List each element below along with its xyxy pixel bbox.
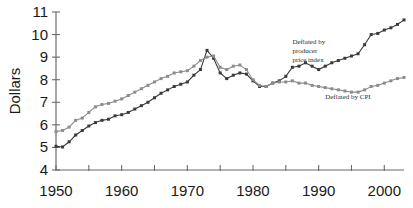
data-point-marker: [166, 75, 169, 78]
data-point-marker: [403, 18, 406, 21]
data-point-marker: [219, 66, 222, 69]
data-point-marker: [291, 79, 294, 82]
line-chart: 4567891011195019601970198019902000Dollar…: [0, 0, 413, 208]
data-point-marker: [199, 59, 202, 62]
data-point-marker: [74, 119, 77, 122]
data-point-marker: [173, 71, 176, 74]
data-point-marker: [81, 117, 84, 120]
data-point-marker: [107, 118, 110, 121]
data-point-marker: [127, 111, 130, 114]
data-point-marker: [396, 77, 399, 80]
y-tick-label: 7: [40, 93, 48, 110]
data-point-marker: [55, 130, 58, 133]
data-point-marker: [311, 84, 314, 87]
data-point-marker: [179, 70, 182, 73]
x-tick-label: 2000: [368, 182, 401, 199]
data-point-marker: [389, 79, 392, 82]
y-tick-label: 10: [31, 26, 48, 43]
data-point-marker: [265, 85, 268, 88]
data-point-marker: [94, 105, 97, 108]
data-point-marker: [337, 88, 340, 91]
data-point-marker: [140, 104, 143, 107]
data-point-marker: [245, 68, 248, 71]
data-point-marker: [146, 84, 149, 87]
data-point-marker: [363, 88, 366, 91]
x-tick-label: 1950: [39, 182, 72, 199]
data-point-marker: [291, 66, 294, 69]
y-tick-label: 11: [32, 3, 48, 20]
x-tick-label: 1990: [302, 182, 335, 199]
data-point-marker: [297, 65, 300, 68]
data-point-marker: [396, 23, 399, 26]
data-point-marker: [61, 129, 64, 132]
x-tick-label: 1980: [236, 182, 269, 199]
data-point-marker: [225, 77, 228, 80]
data-point-marker: [120, 97, 123, 100]
data-point-marker: [370, 33, 373, 36]
y-axis-title: Dollars: [6, 68, 23, 115]
data-point-marker: [403, 76, 406, 79]
data-point-marker: [363, 43, 366, 46]
data-point-marker: [370, 85, 373, 88]
data-point-marker: [192, 65, 195, 68]
data-point-marker: [206, 56, 209, 59]
data-point-marker: [304, 82, 307, 85]
data-point-marker: [357, 52, 360, 55]
data-point-marker: [212, 55, 215, 58]
data-point-marker: [284, 75, 287, 78]
data-point-marker: [160, 92, 163, 95]
data-point-marker: [245, 73, 248, 76]
data-point-marker: [330, 61, 333, 64]
data-point-marker: [225, 68, 228, 71]
data-point-marker: [376, 32, 379, 35]
annotation-line: producer: [292, 47, 318, 55]
data-point-marker: [232, 74, 235, 77]
data-point-marker: [120, 113, 123, 116]
data-point-marker: [350, 55, 353, 58]
data-point-marker: [383, 29, 386, 32]
data-point-marker: [133, 91, 136, 94]
data-point-marker: [271, 82, 274, 85]
data-point-marker: [68, 126, 71, 129]
data-point-marker: [317, 85, 320, 88]
data-point-marker: [133, 108, 136, 111]
y-tick-label: 9: [40, 48, 48, 65]
data-point-marker: [199, 68, 202, 71]
data-point-marker: [383, 82, 386, 85]
data-point-marker: [114, 114, 117, 117]
chart-container: 4567891011195019601970198019902000Dollar…: [0, 0, 413, 208]
data-point-marker: [94, 121, 97, 124]
data-point-marker: [166, 88, 169, 91]
data-point-marker: [232, 65, 235, 68]
data-point-marker: [324, 65, 327, 68]
data-point-marker: [127, 94, 130, 97]
data-point-marker: [330, 87, 333, 90]
data-point-marker: [192, 74, 195, 77]
data-point-marker: [219, 71, 222, 74]
data-point-marker: [251, 78, 254, 81]
data-point-marker: [114, 100, 117, 103]
x-tick-label: 1970: [171, 182, 204, 199]
data-point-marker: [238, 64, 241, 67]
data-point-marker: [68, 140, 71, 143]
series-ppi: [55, 18, 406, 148]
y-tick-label: 5: [40, 138, 48, 155]
data-point-marker: [81, 129, 84, 132]
data-point-marker: [100, 103, 103, 106]
data-point-marker: [238, 71, 241, 74]
data-point-marker: [153, 80, 156, 83]
data-point-marker: [297, 82, 300, 85]
annotation-line: Deflated by: [292, 38, 325, 46]
data-point-marker: [258, 84, 261, 87]
data-point-marker: [146, 101, 149, 104]
y-tick-label: 6: [40, 116, 48, 133]
data-point-marker: [284, 80, 287, 83]
ppi-series-label: Deflated byproducerprice index: [292, 38, 325, 64]
data-point-marker: [140, 87, 143, 90]
cpi-series-label: Deflated by CPI: [325, 93, 371, 101]
data-point-marker: [206, 49, 209, 52]
data-point-marker: [376, 84, 379, 87]
data-point-marker: [61, 145, 64, 148]
annotation-line: price index: [292, 56, 324, 64]
data-point-marker: [337, 59, 340, 62]
